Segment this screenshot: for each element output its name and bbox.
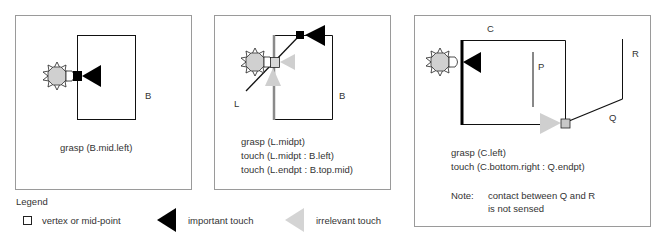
vertex-square-icon (73, 71, 82, 81)
panel-2-caption-0: grasp (L.midpt) (241, 136, 305, 147)
legend: Legend vertex or mid-point important tou… (16, 196, 381, 232)
vertex-square-icon (296, 31, 304, 39)
vertex-square-icon (561, 119, 570, 128)
panel-2-caption-1: touch (L.midpt : B.left) (241, 150, 334, 161)
panel-1-frame (16, 16, 192, 190)
panel-1: B grasp (B.mid.left) (16, 16, 192, 190)
legend-label-important: important touch (188, 215, 253, 226)
panel-3-caption-0: grasp (C.left) (451, 147, 506, 158)
note-line-0: contact between Q and R (488, 190, 595, 201)
panel-2: L B grasp (L.midpt) touch (L.midpt : B.l… (215, 16, 391, 190)
legend-label-irrelevant: irrelevant touch (316, 215, 381, 226)
diagram-canvas: B grasp (B.mid.left) L B grasp (L.midpt)… (0, 0, 666, 245)
panel-3: C P R Q grasp (C.left) touch (C.bottom.r… (415, 16, 651, 227)
important-touch-triangle-icon (157, 208, 176, 232)
panel-3-caption-1: touch (C.bottom.right : Q.endpt) (451, 161, 585, 172)
object-b-label: B (145, 90, 151, 101)
vertex-square-icon (271, 58, 280, 68)
panel-2-caption-2: touch (L.endpt : B.top.mid) (241, 164, 353, 175)
panel-1-caption-0: grasp (B.mid.left) (60, 142, 132, 153)
object-b-label: B (339, 90, 345, 101)
object-p-label: P (538, 61, 544, 72)
object-c-label: C (487, 23, 494, 34)
legend-label-vertex: vertex or mid-point (42, 215, 121, 226)
object-q-label: Q (609, 112, 616, 123)
line-l-label: L (234, 98, 239, 109)
note-label: Note: (451, 190, 474, 201)
note-line-1: is not sensed (488, 203, 544, 214)
vertex-square-icon (24, 217, 32, 225)
legend-title: Legend (16, 196, 48, 207)
irrelevant-touch-triangle-icon (285, 208, 304, 232)
object-r-label: R (632, 48, 639, 59)
